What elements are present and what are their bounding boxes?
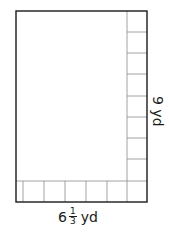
width-whole: 6	[58, 209, 67, 225]
width-unit: yd	[81, 209, 98, 225]
width-label: 6 1 3 yd	[58, 207, 98, 226]
height-label: 9 yd	[150, 96, 166, 127]
right-column-grid	[127, 11, 147, 202]
area-diagram	[0, 0, 169, 237]
width-denominator: 3	[70, 217, 76, 226]
width-fraction: 1 3	[69, 207, 77, 226]
